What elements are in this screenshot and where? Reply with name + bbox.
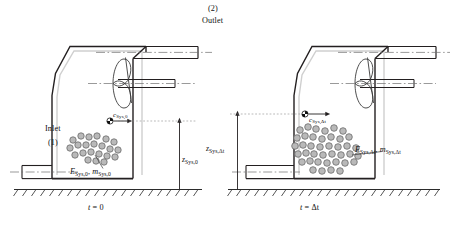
time-value-left: 0 <box>99 203 103 212</box>
height-dimension-right <box>230 113 302 189</box>
time-symbol-left: t <box>88 203 90 212</box>
inlet-pipe-right <box>232 166 300 179</box>
time-value-right: Δt <box>311 203 319 212</box>
vessel-body-left <box>52 47 146 179</box>
figure-canvas: (2) Outlet Inlet (1) cSys,0 zSys,0 ESys,… <box>0 0 452 226</box>
velocity-subscript-right: Sys,Δt <box>312 119 326 124</box>
time-symbol-right: t <box>300 203 302 212</box>
diagram-svg <box>0 0 452 226</box>
mass-subscript-left: Sys,0 <box>98 171 111 177</box>
panel-right <box>228 47 451 197</box>
velocity-label-right: cSys,Δt <box>309 117 326 124</box>
mass-symbol-right: m <box>380 145 386 154</box>
velocity-subscript-left: Sys,0 <box>116 114 127 119</box>
time-equals-left: = <box>93 203 98 212</box>
inlet-port-name: Inlet <box>45 125 61 133</box>
time-label-left: t = 0 <box>88 204 104 212</box>
outlet-port-name: Outlet <box>202 17 223 25</box>
inlet-port-number: (1) <box>48 139 58 147</box>
energy-subscript-right: Sys,Δt <box>360 149 375 155</box>
energy-mass-label-left: ESys,0, mSys,0 <box>70 168 111 176</box>
mass-subscript-right: Sys,Δt <box>386 149 401 155</box>
panel-left <box>10 47 212 197</box>
height-label-right: zSys,Δt <box>206 145 224 153</box>
time-equals-right: = <box>305 203 310 212</box>
height-label-left: zSys,0 <box>182 156 198 164</box>
velocity-label-left: cSys,0 <box>113 112 128 119</box>
ground-left <box>14 190 203 197</box>
height-subscript-right: Sys,Δt <box>209 148 224 154</box>
energy-subscript-left: Sys,0 <box>75 171 88 177</box>
height-subscript-left: Sys,0 <box>185 159 198 165</box>
energy-mass-label-right: ESys,Δt, mSys,Δt <box>355 146 401 154</box>
outlet-port-number: (2) <box>208 5 218 13</box>
time-label-right: t = Δt <box>300 204 319 212</box>
ground-right <box>228 190 441 197</box>
